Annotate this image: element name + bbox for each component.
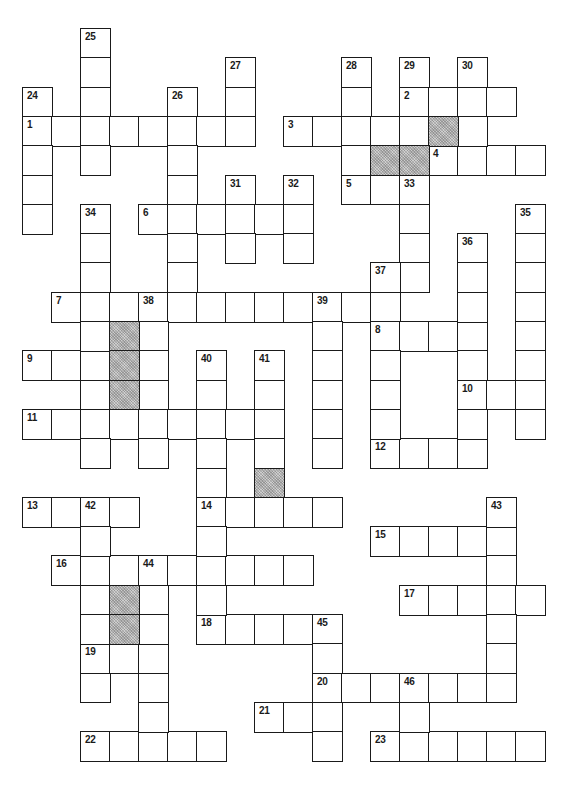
crossword-cell[interactable]	[254, 555, 285, 586]
crossword-cell[interactable]	[457, 673, 488, 704]
crossword-cell[interactable]	[457, 585, 488, 616]
crossword-cell[interactable]	[225, 497, 256, 528]
crossword-cell[interactable]	[370, 116, 401, 147]
crossword-cell[interactable]: 14	[196, 497, 227, 528]
crossword-cell[interactable]	[370, 175, 401, 206]
crossword-cell[interactable]	[312, 702, 343, 733]
crossword-cell[interactable]	[486, 526, 517, 557]
crossword-cell[interactable]	[254, 380, 285, 411]
crossword-cell[interactable]	[457, 116, 488, 147]
crossword-cell[interactable]: 25	[80, 28, 111, 59]
crossword-cell[interactable]	[312, 350, 343, 381]
crossword-cell[interactable]	[80, 233, 111, 264]
crossword-cell[interactable]	[80, 87, 111, 118]
crossword-cell[interactable]	[167, 409, 198, 440]
crossword-cell[interactable]	[51, 409, 82, 440]
crossword-cell[interactable]	[80, 555, 111, 586]
crossword-cell[interactable]: 20	[312, 673, 343, 704]
crossword-cell[interactable]	[515, 292, 546, 323]
crossword-cell[interactable]: 33	[399, 175, 430, 206]
crossword-cell[interactable]: 13	[22, 497, 53, 528]
crossword-cell[interactable]	[80, 145, 111, 176]
crossword-cell[interactable]	[515, 350, 546, 381]
crossword-cell[interactable]	[225, 614, 256, 645]
crossword-cell[interactable]	[341, 292, 372, 323]
crossword-cell[interactable]	[486, 643, 517, 674]
crossword-cell[interactable]	[457, 350, 488, 381]
crossword-cell[interactable]	[225, 116, 256, 147]
crossword-cell[interactable]: 23	[370, 731, 401, 762]
crossword-cell[interactable]	[457, 438, 488, 469]
crossword-cell[interactable]	[225, 555, 256, 586]
crossword-cell[interactable]	[196, 468, 227, 499]
crossword-cell[interactable]	[399, 262, 430, 293]
crossword-cell[interactable]: 15	[370, 526, 401, 557]
crossword-cell[interactable]	[312, 731, 343, 762]
crossword-cell[interactable]	[138, 643, 169, 674]
crossword-cell[interactable]: 18	[196, 614, 227, 645]
crossword-cell[interactable]	[399, 526, 430, 557]
crossword-cell[interactable]: 5	[341, 175, 372, 206]
crossword-cell[interactable]	[457, 292, 488, 323]
crossword-cell[interactable]	[167, 116, 198, 147]
crossword-cell[interactable]	[486, 731, 517, 762]
crossword-cell[interactable]	[399, 702, 430, 733]
crossword-cell[interactable]	[80, 526, 111, 557]
crossword-cell[interactable]	[80, 438, 111, 469]
crossword-cell[interactable]	[515, 262, 546, 293]
crossword-cell[interactable]: 26	[167, 87, 198, 118]
crossword-cell[interactable]	[80, 321, 111, 352]
crossword-cell[interactable]	[428, 526, 459, 557]
crossword-cell[interactable]	[109, 643, 140, 674]
crossword-cell[interactable]	[428, 673, 459, 704]
crossword-cell[interactable]: 34	[80, 204, 111, 235]
crossword-cell[interactable]: 1	[22, 116, 53, 147]
crossword-cell[interactable]	[225, 233, 256, 264]
crossword-cell[interactable]: 12	[370, 438, 401, 469]
crossword-cell[interactable]	[283, 233, 314, 264]
crossword-cell[interactable]	[341, 87, 372, 118]
crossword-cell[interactable]	[138, 380, 169, 411]
crossword-cell[interactable]	[80, 585, 111, 616]
crossword-cell[interactable]	[196, 380, 227, 411]
crossword-cell[interactable]: 17	[399, 585, 430, 616]
crossword-cell[interactable]	[138, 438, 169, 469]
crossword-cell[interactable]	[312, 643, 343, 674]
crossword-cell[interactable]	[428, 87, 459, 118]
crossword-cell[interactable]	[80, 380, 111, 411]
crossword-cell[interactable]	[196, 585, 227, 616]
crossword-cell[interactable]	[225, 87, 256, 118]
crossword-cell[interactable]	[138, 585, 169, 616]
crossword-cell[interactable]: 21	[254, 702, 285, 733]
crossword-cell[interactable]	[225, 204, 256, 235]
crossword-cell[interactable]	[486, 673, 517, 704]
crossword-cell[interactable]	[167, 204, 198, 235]
crossword-cell[interactable]	[399, 321, 430, 352]
crossword-cell[interactable]: 42	[80, 497, 111, 528]
crossword-cell[interactable]	[80, 57, 111, 88]
crossword-cell[interactable]	[515, 585, 546, 616]
crossword-cell[interactable]	[196, 438, 227, 469]
crossword-cell[interactable]: 16	[51, 555, 82, 586]
crossword-cell[interactable]	[486, 145, 517, 176]
crossword-cell[interactable]	[283, 614, 314, 645]
crossword-cell[interactable]	[515, 380, 546, 411]
crossword-cell[interactable]: 10	[457, 380, 488, 411]
crossword-cell[interactable]	[80, 292, 111, 323]
crossword-cell[interactable]	[341, 145, 372, 176]
crossword-cell[interactable]	[138, 673, 169, 704]
crossword-cell[interactable]	[370, 292, 401, 323]
crossword-cell[interactable]: 29	[399, 57, 430, 88]
crossword-cell[interactable]	[167, 262, 198, 293]
crossword-cell[interactable]	[167, 175, 198, 206]
crossword-cell[interactable]	[399, 438, 430, 469]
crossword-cell[interactable]	[196, 204, 227, 235]
crossword-cell[interactable]	[399, 204, 430, 235]
crossword-cell[interactable]	[109, 731, 140, 762]
crossword-cell[interactable]	[80, 614, 111, 645]
crossword-cell[interactable]	[51, 116, 82, 147]
crossword-cell[interactable]: 39	[312, 292, 343, 323]
crossword-cell[interactable]	[80, 116, 111, 147]
crossword-cell[interactable]	[486, 380, 517, 411]
crossword-cell[interactable]	[22, 145, 53, 176]
